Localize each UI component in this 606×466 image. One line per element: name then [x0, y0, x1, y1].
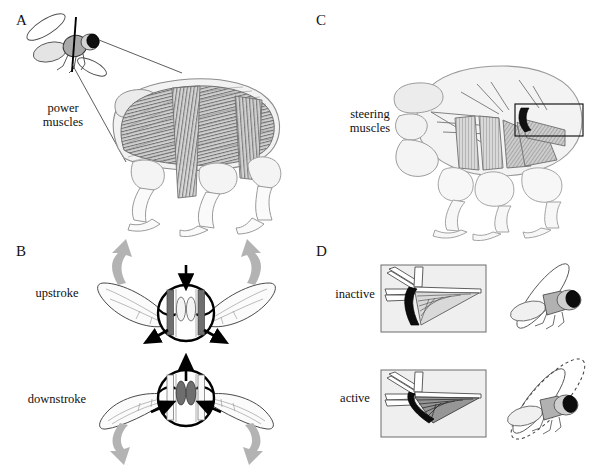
inactive-fly	[508, 258, 582, 335]
upstroke-arrow-left	[152, 330, 168, 339]
panel-c-letter: C	[316, 12, 326, 29]
power-muscles-label-line1: power	[28, 101, 98, 115]
panel-a: A	[0, 0, 303, 233]
panel-d-drawing	[303, 233, 606, 466]
upstroke-thorax-section	[158, 285, 214, 341]
downstroke-wing-right	[205, 394, 273, 430]
panel-b: B	[0, 233, 303, 466]
upstroke-motion-arrow-right	[241, 239, 261, 285]
panel-d: D	[303, 233, 606, 466]
steering-muscles-label-line1: steering	[331, 107, 409, 121]
legs-group	[433, 168, 562, 241]
upstroke-diagram	[98, 239, 276, 341]
power-muscles-label: power muscles	[28, 101, 98, 129]
upstroke-wing-right	[205, 283, 275, 327]
active-fly	[501, 350, 594, 449]
figure-root: A	[0, 0, 606, 466]
dvm-bar-left	[167, 290, 174, 335]
upstroke-wing-left	[98, 283, 168, 327]
panel-a-letter: A	[16, 12, 27, 29]
dlm-ellipse-right	[186, 381, 196, 405]
upstroke-motion-arrow-left	[112, 239, 132, 285]
dvm-bar-right	[198, 375, 205, 420]
upstroke-arrow-right	[204, 330, 220, 339]
panel-b-drawing	[0, 233, 303, 466]
active-label: active	[313, 391, 397, 405]
downstroke-motion-arrow-left	[110, 423, 130, 465]
dvm-bar-right	[198, 290, 205, 335]
downstroke-label: downstroke	[8, 392, 106, 406]
steering-muscles-label: steering muscles	[331, 107, 409, 135]
panel-c: C	[303, 0, 606, 233]
dlm-ellipse-left	[176, 381, 186, 405]
upstroke-label: upstroke	[12, 286, 102, 300]
downstroke-motion-arrow-right	[243, 423, 263, 465]
fly-whole-body	[23, 9, 109, 80]
inactive-label: inactive	[313, 287, 397, 301]
panel-b-letter: B	[16, 243, 26, 260]
dlm-ellipse-left	[176, 297, 185, 321]
panel-d-letter: D	[316, 243, 327, 260]
dlm-ellipse-right	[186, 297, 195, 321]
dvm-bar-left	[167, 375, 174, 420]
power-muscles-label-line2: muscles	[28, 115, 98, 129]
downstroke-diagram	[100, 363, 274, 465]
magnified-thorax	[113, 79, 281, 237]
steering-muscles-label-line2: muscles	[331, 121, 409, 135]
